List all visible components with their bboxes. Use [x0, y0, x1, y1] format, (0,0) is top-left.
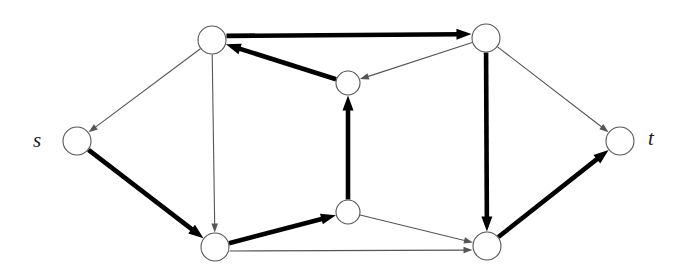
edge-e-to-f-line: [360, 215, 466, 241]
edge-e-to-f: [360, 215, 473, 244]
edge-b-to-a-arrowhead: [226, 44, 242, 54]
node-t[interactable]: [606, 127, 634, 155]
edge-f-to-t-line: [498, 157, 600, 237]
edge-e-to-b: [343, 96, 354, 200]
edge-c-to-t-arrowhead: [599, 124, 608, 132]
edge-d-to-e-line: [229, 218, 325, 243]
edge-a-to-c: [226, 29, 471, 40]
diagram-canvas: s t: [0, 0, 695, 274]
node-bottom-left[interactable]: [201, 233, 229, 261]
edge-c-to-b: [360, 43, 472, 80]
edge-b-to-a-line: [236, 48, 336, 80]
edge-d-to-e-arrowhead: [320, 214, 336, 225]
node-bottom-right[interactable]: [473, 232, 501, 260]
edge-c-to-t: [498, 47, 609, 132]
edge-a-to-s-arrowhead: [89, 124, 98, 132]
edge-d-to-f-line: [230, 250, 467, 251]
edge-c-to-f-line: [486, 53, 487, 221]
graph-svg: [0, 0, 695, 274]
edge-c-to-b-line: [366, 43, 472, 78]
node-s[interactable]: [63, 127, 91, 155]
edge-a-to-d-arrowhead: [211, 223, 218, 232]
edge-s-to-d: [89, 150, 204, 238]
node-lower-middle[interactable]: [336, 200, 360, 224]
edge-b-to-a: [226, 44, 336, 80]
label-t: t: [648, 128, 654, 149]
edge-a-to-d-line: [212, 55, 214, 227]
edge-c-to-b-arrowhead: [360, 73, 370, 79]
edge-d-to-f-arrowhead: [464, 247, 473, 254]
edge-d-to-f: [230, 247, 473, 254]
edge-e-to-b-arrowhead: [343, 96, 354, 111]
edge-a-to-s: [89, 49, 201, 133]
node-top-left[interactable]: [198, 26, 226, 54]
edge-d-to-e: [229, 214, 336, 244]
edge-a-to-c-line: [226, 34, 460, 36]
edge-f-to-t: [498, 150, 608, 237]
edge-e-to-f-arrowhead: [463, 237, 473, 243]
edge-c-to-t-line: [498, 47, 604, 128]
edge-a-to-s-line: [94, 49, 201, 129]
label-s: s: [33, 130, 41, 151]
node-upper-middle[interactable]: [336, 71, 360, 95]
node-top-right[interactable]: [472, 24, 500, 52]
edge-c-to-f: [481, 53, 492, 232]
edge-c-to-f-arrowhead: [481, 216, 492, 231]
edge-a-to-c-arrowhead: [456, 29, 471, 40]
edge-s-to-d-line: [89, 150, 195, 232]
edge-a-to-d: [211, 55, 218, 233]
